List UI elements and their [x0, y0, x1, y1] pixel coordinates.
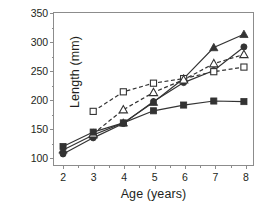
y-tick [50, 100, 54, 101]
data-point-marker [120, 120, 126, 126]
data-point-marker [181, 102, 187, 108]
x-tick-label: 2 [60, 171, 66, 183]
x-tick-minor [200, 165, 201, 168]
plot-area: 100150200250300350 2345678 Length (mm) A… [53, 12, 254, 166]
series-open-triangle [89, 50, 248, 137]
x-tick [155, 165, 156, 169]
data-point-marker [150, 80, 156, 86]
y-tick-minor [52, 86, 55, 87]
series-open-square [90, 64, 247, 114]
data-point-marker [210, 59, 218, 66]
x-tick [215, 165, 216, 169]
data-point-marker [241, 99, 247, 105]
data-point-marker [90, 108, 96, 114]
y-tick [50, 42, 54, 43]
x-tick-minor [231, 165, 232, 168]
data-point-marker [240, 30, 248, 37]
y-tick-label: 350 [31, 7, 48, 19]
y-tick-label: 300 [31, 36, 48, 48]
chart-figure: 100150200250300350 2345678 Length (mm) A… [0, 0, 266, 209]
x-tick-label: 4 [121, 171, 127, 183]
data-point-marker [241, 64, 247, 70]
y-tick-minor [52, 144, 55, 145]
data-point-marker [60, 143, 66, 149]
data-point-marker [240, 50, 248, 57]
x-tick [246, 165, 247, 169]
x-tick [94, 165, 95, 169]
y-tick-minor [52, 28, 55, 29]
data-point-marker [149, 88, 157, 95]
x-tick [124, 165, 125, 169]
y-axis-label: Length (mm) [68, 7, 82, 137]
chart-data-layer [54, 13, 253, 165]
y-tick-minor [52, 57, 55, 58]
data-point-marker [119, 106, 127, 113]
x-tick [63, 165, 64, 169]
data-point-marker [120, 89, 126, 95]
x-tick-label: 6 [182, 171, 188, 183]
y-tick-minor [52, 115, 55, 116]
x-tick-minor [139, 165, 140, 168]
x-tick-label: 3 [91, 171, 97, 183]
y-tick-label: 150 [31, 123, 48, 135]
y-tick [50, 129, 54, 130]
data-point-marker [211, 98, 217, 104]
series-line [93, 67, 244, 111]
x-tick-label: 8 [243, 171, 249, 183]
x-tick [185, 165, 186, 169]
x-tick-minor [170, 165, 171, 168]
series-filled-circle [60, 44, 247, 157]
data-point-marker [90, 129, 96, 135]
data-point-marker [150, 108, 156, 114]
x-tick-minor [78, 165, 79, 168]
series-line [93, 54, 244, 133]
x-axis-label: Age (years) [54, 187, 253, 201]
data-point-marker [60, 151, 66, 157]
y-tick-label: 250 [31, 65, 48, 77]
x-tick-minor [109, 165, 110, 168]
y-tick [50, 71, 54, 72]
y-tick [50, 158, 54, 159]
y-tick-label: 100 [31, 152, 48, 164]
data-point-marker [150, 99, 156, 105]
data-point-marker [210, 43, 218, 50]
y-tick-label: 200 [31, 94, 48, 106]
data-point-marker [211, 69, 217, 75]
x-tick-label: 7 [213, 171, 219, 183]
y-tick [50, 13, 54, 14]
data-point-marker [241, 44, 247, 50]
x-tick-label: 5 [152, 171, 158, 183]
